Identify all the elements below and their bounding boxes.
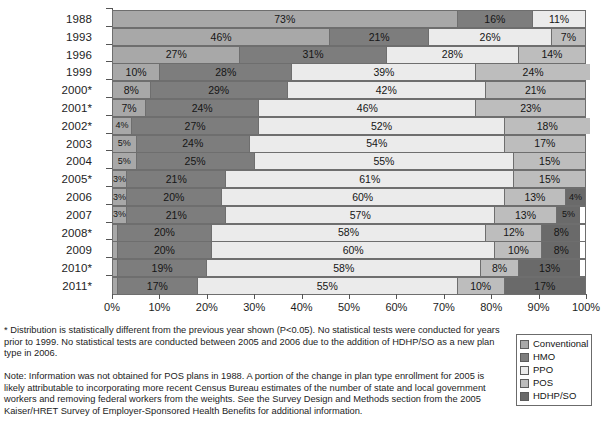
stacked-bar: 10%28%39%24%: [112, 63, 586, 81]
bar-segment: 60%: [212, 242, 495, 258]
y-axis-tick: [106, 168, 112, 169]
y-axis-tick: [106, 222, 112, 223]
year-label: 2005*: [0, 170, 92, 188]
y-axis-tick: [106, 239, 112, 240]
bar-segment: 5%: [113, 136, 137, 152]
bar-segment: 3%: [113, 189, 127, 205]
bar-row: 2011*1%17%55%10%17%: [0, 277, 597, 295]
bar-row: 20045%25%55%15%: [0, 152, 597, 170]
bar-segment: 20%: [118, 242, 212, 258]
bar-segment-label: 19%: [152, 263, 173, 274]
bar-segment-label: 21%: [166, 210, 187, 221]
bar-segment: 20%: [118, 225, 212, 241]
bar-segment: 21%: [127, 207, 226, 223]
legend-swatch-icon: [520, 392, 529, 401]
y-axis-tick: [106, 133, 112, 134]
bar-segment-label: 10%: [508, 245, 529, 256]
stacked-bar: 1%19%58%8%13%: [112, 259, 586, 277]
bar-segment-label: 73%: [274, 14, 295, 25]
bar-segment-label: 8%: [554, 227, 569, 238]
y-axis-tick: [106, 186, 112, 187]
bar-segment-label: 24%: [182, 138, 203, 149]
statistical-footnote: * Distribution is statistically differen…: [4, 325, 504, 360]
stacked-bar: 1%17%55%10%17%: [112, 277, 586, 295]
legend-item[interactable]: HDHP/SO: [520, 390, 588, 402]
year-label: 2002*: [0, 117, 92, 135]
bar-segment: 10%: [113, 64, 160, 80]
bar-segment-label: 46%: [211, 32, 232, 43]
bar-segment-label: 42%: [376, 85, 397, 96]
bar-segment: 58%: [207, 260, 481, 276]
legend-item[interactable]: Conventional: [520, 338, 588, 350]
bar-segment: 4%: [113, 118, 132, 134]
y-axis-tick: [106, 44, 112, 45]
bar-segment-label: 14%: [541, 49, 562, 60]
bar-segment-label: 28%: [215, 67, 236, 78]
bar-row: 2008*1%20%58%12%8%: [0, 224, 597, 242]
bar-segment: 42%: [288, 82, 486, 98]
year-label: 2001*: [0, 99, 92, 117]
bar-segment: 18%: [505, 118, 590, 134]
bar-segment-label: 8%: [554, 245, 569, 256]
bar-segment: 15%: [514, 171, 585, 187]
x-axis-tick-label: 50%: [324, 301, 374, 313]
x-axis-tick: [491, 294, 492, 299]
bar-segment-label: 13%: [515, 210, 536, 221]
x-axis-tick: [159, 294, 160, 299]
bar-segment: 17%: [505, 278, 585, 294]
stacked-bar: 3%21%61%15%: [112, 170, 586, 188]
bar-segment: 60%: [222, 189, 505, 205]
bar-segment-label: 29%: [208, 85, 229, 96]
y-axis-tick: [106, 8, 112, 9]
legend-item[interactable]: HMO: [520, 351, 588, 363]
x-axis-tick-label: 30%: [229, 301, 279, 313]
year-label: 2010*: [0, 259, 92, 277]
bar-segment-label: 24%: [192, 103, 213, 114]
bar-segment-label: 15%: [539, 174, 560, 185]
bar-segment-label: 8%: [492, 263, 507, 274]
x-axis-tick-label: 10%: [134, 301, 184, 313]
year-label: 1999: [0, 63, 92, 81]
bar-segment-label: 15%: [539, 156, 560, 167]
bar-segment-label: 27%: [166, 49, 187, 60]
bar-segment-label: 3%: [113, 210, 126, 219]
year-label: 2011*: [0, 277, 92, 295]
y-axis-tick: [106, 115, 112, 116]
bar-segment: 13%: [505, 189, 566, 205]
bar-segment: 8%: [113, 82, 151, 98]
bar-row: 199627%31%28%14%: [0, 46, 597, 64]
year-label: 2007: [0, 206, 92, 224]
bar-segment-label: 10%: [470, 281, 491, 292]
bar-segment: 19%: [118, 260, 208, 276]
stacked-bar: 8%29%42%21%: [112, 81, 586, 99]
bar-segment: 24%: [476, 64, 589, 80]
bar-row: 199910%28%39%24%: [0, 63, 597, 81]
y-axis-tick: [106, 257, 112, 258]
bar-segment: 7%: [552, 29, 585, 45]
bar-segment-label: 60%: [343, 245, 364, 256]
bar-segment: 16%: [458, 11, 534, 27]
bar-segment-label: 58%: [338, 227, 359, 238]
x-axis-tick-label: 90%: [514, 301, 564, 313]
bar-segment: 10%: [495, 242, 542, 258]
y-axis-tick: [106, 79, 112, 80]
bar-segment-label: 10%: [126, 67, 147, 78]
bar-segment: 55%: [255, 153, 515, 169]
x-axis-tick-label: 80%: [466, 301, 516, 313]
x-axis-tick: [302, 294, 303, 299]
x-axis-tick-label: 20%: [182, 301, 232, 313]
stacked-bar: 73%16%11%: [112, 10, 586, 28]
bar-segment-label: 20%: [154, 227, 175, 238]
stacked-bar: 1%20%60%10%8%: [112, 241, 586, 259]
legend-item[interactable]: PPO: [520, 364, 588, 376]
bar-row: 20035%24%54%17%: [0, 135, 597, 153]
legend-item[interactable]: POS: [520, 377, 588, 389]
bar-segment-label: 7%: [121, 103, 136, 114]
year-label: 2003: [0, 135, 92, 153]
stacked-bar: 7%24%46%23%: [112, 99, 586, 117]
y-axis-tick: [106, 275, 112, 276]
x-axis-tick: [539, 294, 540, 299]
stacked-bar: 3%20%60%13%4%: [112, 188, 586, 206]
x-axis-tick-label: 60%: [371, 301, 421, 313]
stacked-bar: 4%27%52%18%: [112, 117, 586, 135]
